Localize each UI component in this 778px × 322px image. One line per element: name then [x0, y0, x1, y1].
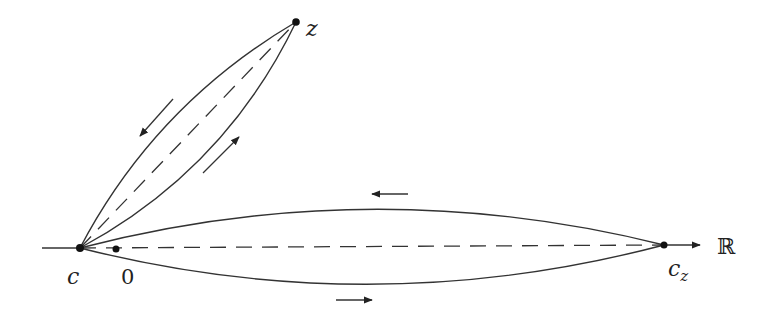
- real-lens-upper-curve: [80, 209, 664, 248]
- label-cz: cz: [668, 256, 688, 285]
- point-c: [76, 244, 84, 252]
- point-zero: [113, 246, 120, 253]
- z-right-arrow-icon: [203, 137, 239, 173]
- real-lens-lower-curve: [80, 245, 664, 284]
- label-real-axis: ℝ: [717, 234, 736, 259]
- label-cz-sub: z: [679, 267, 688, 285]
- point-cz: [661, 242, 668, 249]
- label-c: c: [67, 264, 79, 289]
- dashed-segment-c-cz: [80, 245, 664, 248]
- label-zero: 0: [121, 265, 134, 289]
- dashed-segment-c-z: [80, 22, 296, 248]
- point-z: [292, 18, 300, 26]
- label-cz-main: c: [668, 256, 680, 281]
- label-z: z: [305, 16, 318, 41]
- contour-diagram: c 0 cz z ℝ: [0, 0, 778, 322]
- z-left-arrow-icon: [140, 99, 173, 136]
